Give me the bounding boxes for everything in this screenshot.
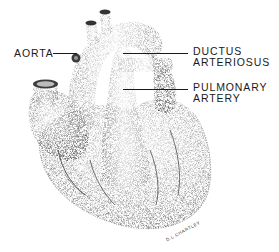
heart-illustration bbox=[0, 0, 279, 252]
leader-line-aorta bbox=[53, 53, 77, 54]
leader-line-pulmonary bbox=[123, 89, 188, 90]
label-ductus-arteriosus: DUCTUS ARTERIOSUS bbox=[193, 46, 270, 68]
label-aorta: AORTA bbox=[14, 48, 54, 59]
label-pulmonary-artery: PULMONARY ARTERY bbox=[193, 82, 267, 104]
label-ductus-line2: ARTERIOSUS bbox=[193, 57, 270, 68]
label-pulmonary-line2: ARTERY bbox=[193, 93, 267, 104]
heart-diagram: AORTA DUCTUS ARTERIOSUS PULMONARY ARTERY… bbox=[0, 0, 279, 252]
leader-line-ductus bbox=[123, 53, 188, 54]
